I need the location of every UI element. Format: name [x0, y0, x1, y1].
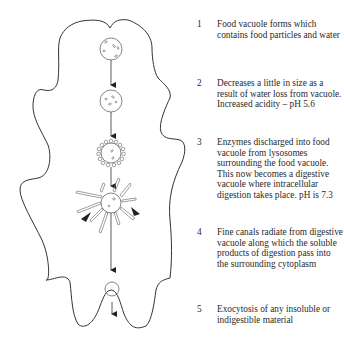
step-description: Exocytosis of any insoluble or indigesti…	[217, 304, 343, 325]
step-number: 4	[197, 227, 209, 238]
food-vacuole-stage-1	[100, 38, 122, 60]
step-number: 2	[197, 78, 209, 89]
step-number: 1	[197, 19, 209, 30]
digestive-vacuole-with-lysosomes	[97, 139, 126, 167]
step-number: 3	[197, 137, 209, 148]
food-vacuole-stage-2	[100, 90, 122, 112]
step-number: 5	[197, 304, 209, 315]
step-description: Food vacuole forms which contains food p…	[217, 19, 343, 40]
step-description: Enzymes discharged into food vacuole fro…	[217, 137, 343, 201]
step-description: Decreases a little in size as a result o…	[217, 78, 343, 110]
exocytosis-vacuole	[105, 282, 119, 314]
step-description: Fine canals radiate from digestive vacuo…	[217, 227, 343, 269]
cell-membrane-outline	[20, 20, 185, 328]
digestive-vacuole-with-canals	[76, 178, 140, 233]
